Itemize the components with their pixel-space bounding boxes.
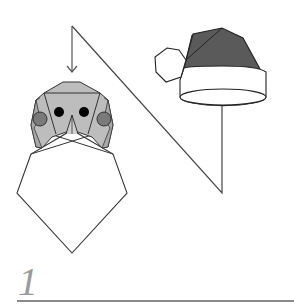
diagram-canvas bbox=[0, 0, 294, 305]
left-cheek bbox=[33, 112, 47, 126]
right-eye bbox=[79, 107, 89, 117]
step-divider bbox=[17, 300, 294, 302]
santa-hat bbox=[155, 28, 266, 106]
down-arrow-icon bbox=[67, 26, 77, 72]
beard bbox=[17, 130, 127, 253]
left-eye bbox=[54, 107, 64, 117]
right-cheek bbox=[97, 112, 111, 126]
pompom bbox=[155, 48, 186, 82]
step-number: 1 bbox=[18, 262, 38, 302]
